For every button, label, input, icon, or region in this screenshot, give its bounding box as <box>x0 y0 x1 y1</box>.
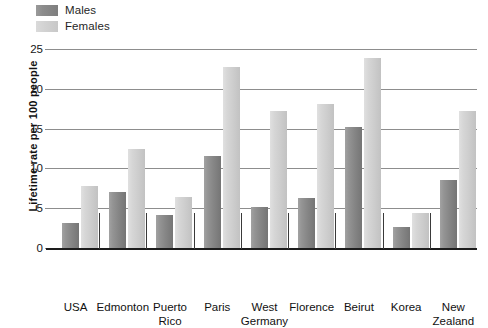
legend-swatch-females-icon <box>36 21 58 32</box>
bar-group <box>295 49 335 248</box>
bar-group <box>390 49 430 248</box>
plot-area: 0510152025 USAEdmontonPuerto RicoParisWe… <box>52 49 477 248</box>
y-tick-label-0: 0 <box>37 242 43 254</box>
chart-legend: Males Females <box>36 2 236 34</box>
bar-males <box>251 207 268 248</box>
bar-females <box>223 67 240 248</box>
y-tick-label-20: 20 <box>30 83 43 95</box>
y-tick-dash-25 <box>45 49 52 50</box>
group-separator <box>335 213 336 249</box>
bar-group <box>437 49 477 248</box>
group-separator <box>383 213 384 249</box>
bar-group <box>59 49 99 248</box>
legend-label-females: Females <box>65 20 110 32</box>
y-tick-label-25: 25 <box>30 43 43 55</box>
y-tick-dash-20 <box>45 89 52 90</box>
y-tick-label-15: 15 <box>30 123 43 135</box>
y-tick-dash-5 <box>45 208 52 209</box>
bar-females <box>412 213 429 248</box>
bar-males <box>393 227 410 248</box>
bar-group <box>248 49 288 248</box>
bar-females <box>128 149 145 248</box>
bar-males <box>345 127 362 248</box>
bar-females <box>270 111 287 248</box>
group-separator <box>194 213 195 249</box>
bar-females <box>175 197 192 248</box>
bar-group <box>153 49 193 248</box>
bar-females <box>459 111 476 248</box>
y-tick-label-5: 5 <box>37 202 43 214</box>
group-separator <box>146 213 147 249</box>
bar-group <box>201 49 241 248</box>
bar-males <box>440 180 457 248</box>
group-separator <box>288 213 289 249</box>
group-separator <box>99 213 100 249</box>
bar-males <box>109 192 126 248</box>
x-tick-label: New Zealand <box>424 301 483 328</box>
group-separator <box>241 213 242 249</box>
bar-males <box>62 223 79 248</box>
y-tick-dash-10 <box>45 168 52 169</box>
legend-item-males: Males <box>36 2 236 18</box>
y-tick-label-10: 10 <box>30 162 43 174</box>
legend-swatch-males-icon <box>36 5 58 16</box>
legend-item-females: Females <box>36 18 236 34</box>
bar-females <box>317 104 334 248</box>
bar-females <box>81 186 98 248</box>
bar-males <box>298 198 315 248</box>
bar-males <box>156 215 173 248</box>
bar-males <box>204 156 221 248</box>
x-axis-line <box>46 248 477 250</box>
bottom-caption <box>60 283 440 289</box>
legend-label-males: Males <box>65 4 96 16</box>
bar-group <box>106 49 146 248</box>
bar-group <box>342 49 382 248</box>
group-separator <box>430 213 431 249</box>
bar-females <box>364 58 381 248</box>
y-tick-dash-15 <box>45 129 52 130</box>
